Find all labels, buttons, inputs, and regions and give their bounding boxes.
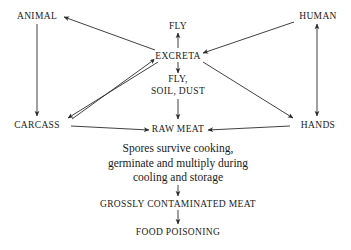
edge-excreta-to-hands bbox=[203, 62, 293, 118]
edge-excreta-to-animal bbox=[64, 17, 155, 50]
node-carcass: CARCASS bbox=[13, 120, 61, 131]
spores-note-line-2: germinate and multiply during bbox=[108, 156, 248, 171]
edge-human-to-excreta bbox=[203, 22, 294, 53]
edge-carcass-to-excreta bbox=[72, 59, 155, 119]
spores-note-line-1: Spores survive cooking, bbox=[108, 141, 248, 156]
node-fly-top: FLY bbox=[168, 21, 188, 32]
contamination-flow-diagram: ANIMAL HUMAN CARCASS HANDS FLY EXCRETA F… bbox=[0, 0, 351, 250]
edge-excreta-to-carcass bbox=[68, 62, 158, 118]
node-excreta: EXCRETA bbox=[154, 51, 202, 62]
edge-hands-to-raw-meat bbox=[208, 126, 290, 130]
node-food-poisoning: FOOD POISONING bbox=[135, 227, 221, 238]
spores-note-line-3: cooling and storage bbox=[108, 170, 248, 185]
node-fly-mid-line: FLY, bbox=[151, 74, 205, 86]
spores-note: Spores survive cooking, germinate and mu… bbox=[108, 141, 248, 185]
node-fly-soil-dust: FLY, SOIL, DUST bbox=[151, 74, 205, 98]
node-human: HUMAN bbox=[298, 11, 338, 22]
node-grossly-contaminated-meat: GROSSLY CONTAMINATED MEAT bbox=[99, 199, 257, 210]
node-hands: HANDS bbox=[300, 120, 336, 131]
node-soil-dust-line: SOIL, DUST bbox=[151, 86, 205, 98]
node-raw-meat: RAW MEAT bbox=[151, 124, 205, 135]
edge-carcass-to-raw-meat bbox=[71, 126, 149, 130]
node-animal: ANIMAL bbox=[16, 11, 58, 22]
